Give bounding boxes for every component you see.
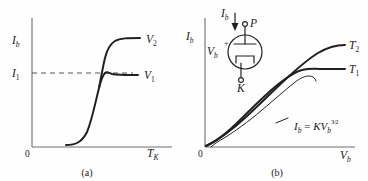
panel-b-caption: (b): [271, 167, 283, 179]
tube-cathode-electrode: [236, 56, 254, 63]
panel-b-curve-label-t1: T1: [349, 63, 359, 78]
vacuum-diode-tube: Ib P K Vb +: [207, 7, 262, 94]
tube-voltage-label: Vb: [207, 45, 218, 60]
panel-a-curve-label-v1: V1: [144, 69, 155, 84]
panel-a-caption: (a): [81, 167, 92, 179]
tube-plate-label: P: [249, 17, 257, 29]
tube-current-arrow-head: [232, 23, 239, 31]
panel-b-origin-label: 0: [198, 149, 203, 159]
panel-a-origin-label: 0: [25, 149, 30, 159]
tube-cathode-label: K: [236, 82, 246, 94]
figure-svg: Ib I1 0 TK V2 V1 (a): [0, 0, 368, 181]
tube-plate-terminal-node: [243, 22, 248, 27]
panel-b-equation: Ib = KVb3⁄2: [293, 118, 339, 135]
panel-b-curve-power-law: [211, 76, 316, 147]
panel-b-y-axis-label: Ib: [185, 30, 194, 45]
panel-b-equation-leader: [276, 118, 288, 123]
panel-b-x-axis-label: Vb: [340, 149, 351, 164]
panel-a: Ib I1 0 TK V2 V1 (a): [11, 18, 172, 179]
panel-b-curve-label-t2: T2: [349, 39, 359, 54]
panel-a-y-axis-label: Ib: [11, 34, 20, 49]
panel-a-curve-v2: [99, 38, 140, 88]
figure-container: Ib I1 0 TK V2 V1 (a): [0, 0, 368, 181]
panel-a-x-axis-label: TK: [147, 147, 159, 162]
panel-a-y-tick-label: I1: [11, 67, 20, 82]
panel-b: Ib 0 Vb T2 T1 Ib = KVb3⁄2 (b): [185, 7, 359, 179]
tube-polarity-plus-sign: +: [224, 39, 229, 48]
tube-current-label: Ib: [220, 7, 229, 22]
panel-a-curve-label-v2: V2: [146, 33, 157, 48]
panel-b-curve-t1: [206, 69, 345, 146]
panel-a-curve-v1: [66, 72, 138, 145]
